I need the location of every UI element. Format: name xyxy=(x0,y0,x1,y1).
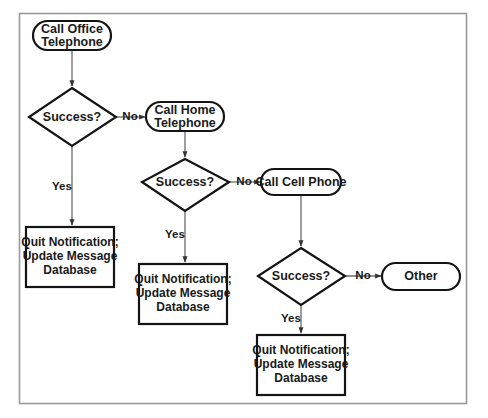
node-call-office-telephone[interactable]: Call Office Telephone xyxy=(33,21,111,50)
node-quit-notification-3-line3: Database xyxy=(274,371,328,385)
node-quit-notification-1-line1: Quit Notification; xyxy=(21,235,118,249)
node-quit-notification-1-line3: Database xyxy=(43,263,97,277)
node-quit-notification-3-line1: Quit Notification; xyxy=(252,343,349,357)
node-quit-notification-3-line2: Update Message xyxy=(254,357,349,371)
node-decision-success-1[interactable]: Success? xyxy=(29,88,116,146)
node-call-home-telephone-line1: Call Home xyxy=(154,103,215,117)
node-decision-success-3[interactable]: Success? xyxy=(258,248,345,305)
edge-label-decision1-no: No xyxy=(122,110,137,122)
node-call-cell-phone[interactable]: Call Cell Phone xyxy=(256,169,347,195)
flowchart-svg: Call Office Telephone Success? Call Home… xyxy=(0,0,488,418)
node-quit-notification-2-line1: Quit Notification; xyxy=(134,272,231,286)
node-decision-success-2-label: Success? xyxy=(156,175,214,189)
diagram-frame xyxy=(20,14,467,404)
node-quit-notification-2[interactable]: Quit Notification; Update Message Databa… xyxy=(134,264,231,324)
node-quit-notification-2-line3: Database xyxy=(156,300,210,314)
node-call-office-telephone-line2: Telephone xyxy=(41,35,103,49)
edge-label-decision3-yes: Yes xyxy=(281,312,301,324)
node-decision-success-1-label: Success? xyxy=(43,110,101,124)
edge-label-decision1-yes: Yes xyxy=(52,180,72,192)
node-call-home-telephone-line2: Telephone xyxy=(154,116,216,130)
flowchart-canvas: Call Office Telephone Success? Call Home… xyxy=(0,0,488,418)
node-other[interactable]: Other xyxy=(382,263,460,290)
node-call-home-telephone[interactable]: Call Home Telephone xyxy=(146,102,224,131)
edge-label-decision3-no: No xyxy=(355,269,370,281)
node-decision-success-3-label: Success? xyxy=(272,269,330,283)
node-other-label: Other xyxy=(404,269,437,283)
node-quit-notification-1[interactable]: Quit Notification; Update Message Databa… xyxy=(21,227,118,287)
node-quit-notification-3[interactable]: Quit Notification; Update Message Databa… xyxy=(252,335,349,395)
node-decision-success-2[interactable]: Success? xyxy=(142,159,229,211)
node-quit-notification-1-line2: Update Message xyxy=(23,249,118,263)
node-quit-notification-2-line2: Update Message xyxy=(136,286,231,300)
node-call-cell-phone-label: Call Cell Phone xyxy=(256,175,347,189)
edge-label-decision2-yes: Yes xyxy=(165,228,185,240)
node-call-office-telephone-line1: Call Office xyxy=(41,22,103,36)
edge-label-decision2-no: No xyxy=(236,175,251,187)
